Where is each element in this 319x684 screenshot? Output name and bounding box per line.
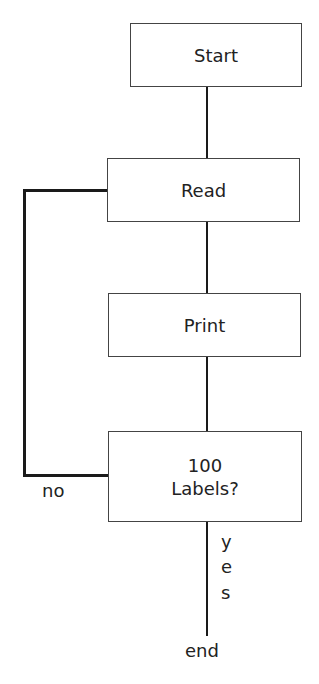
print-node: Print (108, 293, 301, 357)
yes-letter-y: y (221, 531, 232, 552)
loop-horizontal-bottom (23, 474, 108, 477)
loop-vertical (23, 189, 26, 476)
loop-horizontal-top (23, 189, 107, 192)
start-node: Start (130, 23, 302, 87)
end-label: end (185, 640, 219, 661)
decision-node: 100 Labels? (108, 431, 302, 522)
connector-start-read (206, 87, 208, 158)
connector-decision-end (206, 522, 208, 636)
start-label: Start (194, 44, 238, 67)
connector-read-print (206, 222, 208, 293)
no-label: no (42, 480, 64, 501)
yes-letter-e: e (221, 556, 232, 577)
read-label: Read (181, 179, 226, 202)
yes-letter-s: s (221, 582, 230, 603)
decision-label-line1: 100 (188, 454, 222, 477)
print-label: Print (184, 314, 225, 337)
connector-print-decision (206, 357, 208, 431)
read-node: Read (107, 158, 300, 222)
decision-label-line2: Labels? (171, 477, 239, 500)
